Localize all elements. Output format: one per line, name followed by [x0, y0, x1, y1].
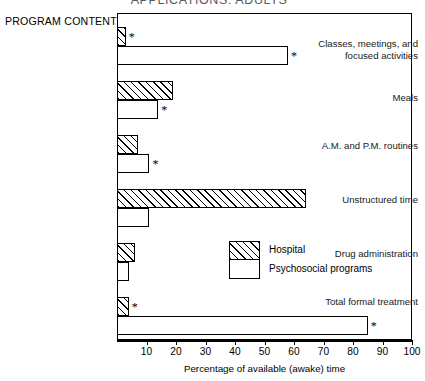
- bar-hospital-2: [117, 135, 138, 154]
- bar-hospital-0: [117, 27, 126, 46]
- legend-swatch-hospital-icon: [230, 242, 259, 260]
- bar-hospital-5: [117, 297, 129, 316]
- x-tick-90: [383, 340, 384, 345]
- category-label-2: A.M. and P.M. routines: [306, 140, 418, 152]
- legend-label-psychosocial: Psychosocial programs: [269, 263, 372, 274]
- bar-psychosocial-0: [117, 46, 288, 65]
- category-label-1: Meals: [306, 92, 418, 104]
- x-tick-30: [206, 340, 207, 345]
- bar-hospital-4: [117, 243, 135, 262]
- x-tick-20: [176, 340, 177, 345]
- bar-psychosocial-4: [117, 262, 129, 281]
- x-tick-40: [235, 340, 236, 345]
- bar-psychosocial-2: [117, 154, 149, 173]
- bar-psychosocial-3: [117, 208, 149, 227]
- x-tick-label-20: 20: [161, 346, 191, 357]
- significance-asterisk: *: [129, 31, 135, 43]
- x-tick-label-50: 50: [250, 346, 280, 357]
- x-tick-label-80: 80: [338, 346, 368, 357]
- bar-psychosocial-1: [117, 100, 158, 119]
- bar-psychosocial-5: [117, 316, 368, 335]
- significance-asterisk: *: [371, 320, 377, 332]
- x-tick-10: [147, 340, 148, 345]
- significance-asterisk: *: [161, 104, 167, 116]
- category-label-4: Drug administration: [306, 248, 418, 260]
- legend-swatch-psychosocial-icon: [230, 260, 259, 278]
- chart-title: APPLICATIONS: ADULTS: [0, 0, 418, 7]
- significance-asterisk: *: [132, 301, 138, 313]
- significance-asterisk: *: [291, 50, 297, 62]
- x-tick-label-70: 70: [309, 346, 339, 357]
- x-tick-60: [294, 340, 295, 345]
- x-tick-label-60: 60: [279, 346, 309, 357]
- x-tick-100: [412, 340, 413, 345]
- y-axis-title: PROGRAM CONTENT: [5, 15, 117, 27]
- significance-asterisk: *: [152, 158, 158, 170]
- x-axis-title: Percentage of available (awake) time: [117, 363, 412, 374]
- x-tick-label-10: 10: [132, 346, 162, 357]
- x-tick-50: [265, 340, 266, 345]
- x-tick-label-40: 40: [220, 346, 250, 357]
- category-label-0: Classes, meetings, and focused activitie…: [306, 38, 418, 61]
- x-tick-label-90: 90: [368, 346, 398, 357]
- x-tick-label-100: 100: [397, 346, 425, 357]
- x-tick-70: [324, 340, 325, 345]
- category-label-5: Total formal treatment: [306, 296, 418, 308]
- category-label-3: Unstructured time: [306, 194, 418, 206]
- bar-hospital-1: [117, 81, 173, 100]
- bar-hospital-3: [117, 189, 306, 208]
- legend-swatch-box: [229, 241, 260, 279]
- legend-label-hospital: Hospital: [269, 244, 305, 255]
- x-tick-80: [353, 340, 354, 345]
- x-tick-label-30: 30: [191, 346, 221, 357]
